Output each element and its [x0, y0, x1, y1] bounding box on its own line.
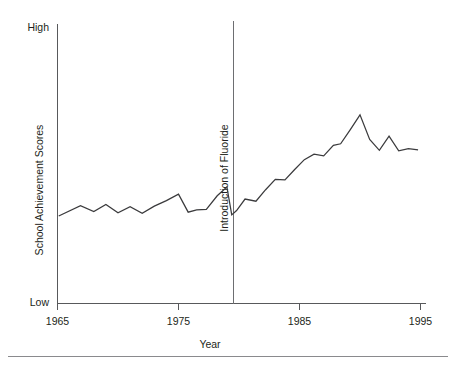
achievement-scores-line: [59, 115, 418, 216]
chart-canvas: High Low School Achievement Scores 1965 …: [0, 0, 456, 369]
x-axis-label-1995: 1995: [409, 315, 433, 327]
x-axis-title: Year: [199, 338, 221, 350]
fluoride-introduction-label: Introduction of Fluoride: [218, 124, 230, 232]
y-axis-high-label: High: [27, 21, 49, 33]
x-axis-label-1975: 1975: [167, 315, 191, 327]
fluoride-achievement-chart-figure: High Low School Achievement Scores 1965 …: [0, 0, 456, 369]
y-axis-title: School Achievement Scores: [33, 125, 45, 256]
x-axis-label-1985: 1985: [288, 315, 312, 327]
x-axis-label-1965: 1965: [46, 315, 70, 327]
y-axis-low-label: Low: [30, 296, 50, 308]
